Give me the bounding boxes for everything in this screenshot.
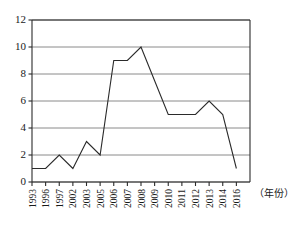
x-tick-label-2012: 2012 (191, 189, 201, 208)
chart-container: 024681012 199319961997200220032005200620… (0, 0, 296, 228)
x-tick-label-2003: 2003 (82, 189, 92, 208)
x-tick-label-2014: 2014 (218, 189, 228, 208)
x-tick-label-1997: 1997 (55, 189, 65, 208)
y-tick-label-4: 4 (21, 121, 27, 133)
x-tick-label-2013: 2013 (205, 189, 215, 208)
y-tick-label-0: 0 (21, 175, 27, 187)
x-tick-label-2006: 2006 (109, 189, 119, 208)
line-chart: 024681012 199319961997200220032005200620… (0, 0, 296, 228)
x-tick-label-2007: 2007 (123, 189, 133, 208)
x-tick-label-2005: 2005 (96, 189, 106, 208)
y-tick-label-10: 10 (15, 40, 27, 52)
x-axis-caption: （年份） (254, 187, 294, 199)
x-tick-label-2008: 2008 (137, 189, 147, 208)
y-tick-label-12: 12 (15, 13, 26, 25)
x-axis-unit-label: （年份） (254, 187, 294, 199)
x-tick-label-2009: 2009 (150, 189, 160, 208)
y-tick-label-2: 2 (21, 148, 27, 160)
x-tick-label-2002: 2002 (68, 189, 78, 208)
x-tick-label-2016: 2016 (232, 189, 242, 208)
x-tick-label-1996: 1996 (41, 189, 51, 208)
x-tick-label-1993: 1993 (28, 189, 38, 208)
x-tick-label-2011: 2011 (177, 189, 187, 208)
y-tick-label-6: 6 (21, 94, 27, 106)
x-tick-label-2010: 2010 (164, 189, 174, 208)
y-tick-label-8: 8 (21, 67, 27, 79)
